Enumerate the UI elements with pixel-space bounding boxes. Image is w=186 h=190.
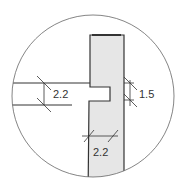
detail-drawing <box>0 0 186 190</box>
dim-notch <box>124 77 137 107</box>
dim-label-notch: 1.5 <box>139 89 154 100</box>
slab <box>10 83 90 105</box>
dim-label-slab: 2.2 <box>53 89 68 100</box>
dim-slab <box>37 76 51 112</box>
dim-label-wall: 2.2 <box>93 147 108 158</box>
wall <box>88 35 124 190</box>
detail-diagram: 2.2 1.5 2.2 <box>0 0 186 190</box>
